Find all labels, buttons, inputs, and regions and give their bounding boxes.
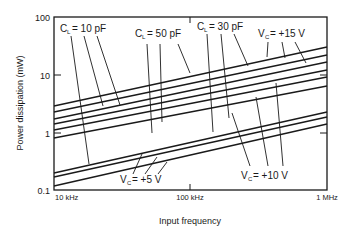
y-tick-1: 1 [45,129,50,139]
svg-text:V: V [258,28,265,39]
y-tick-100: 100 [35,13,50,23]
line-vc5-cl30 [54,117,327,177]
y-tick-10: 10 [40,71,50,81]
svg-text:= +15 V: = +15 V [270,28,305,39]
x-tick-100khz: 100 kHz [176,193,204,202]
power-dissipation-chart: 100 10 1 0.1 10 kHz 100 kHz 1 MHz Input … [0,0,357,236]
svg-text:L: L [204,27,208,33]
x-tick-1mhz: 1 MHz [316,193,338,202]
label-cl-10pf: C L = 10 pF [60,23,106,35]
svg-text:= 30 pF: = 30 pF [209,21,243,32]
svg-text:L: L [142,34,146,40]
label-vc-5v: V C = +5 V [120,174,162,186]
y-axis-title: Power dissipation (mW) [15,55,25,150]
x-tick-10khz: 10 kHz [55,193,79,202]
label-vc-10v: V C = +10 V [241,170,288,182]
line-vc10-cl10 [54,86,327,138]
svg-text:= +10 V: = +10 V [253,170,288,181]
x-axis-title: Input frequency [159,216,222,226]
label-vc-15v: V C = +15 V [258,28,305,40]
svg-text:= 10 pF: = 10 pF [72,23,106,34]
vc15-vc10-lines [54,47,327,138]
label-cl-30pf: C L = 30 pF [197,21,243,33]
svg-text:L: L [67,29,71,35]
svg-text:V: V [241,170,248,181]
line-vc15-cl10 [54,62,327,119]
line-vc5-cl50 [54,112,327,173]
svg-text:= 50 pF: = 50 pF [147,28,181,39]
svg-text:= +5 V: = +5 V [132,174,162,185]
svg-text:V: V [120,174,127,185]
y-tick-0.1: 0.1 [37,186,50,196]
label-cl-50pf: C L = 50 pF [135,28,181,40]
